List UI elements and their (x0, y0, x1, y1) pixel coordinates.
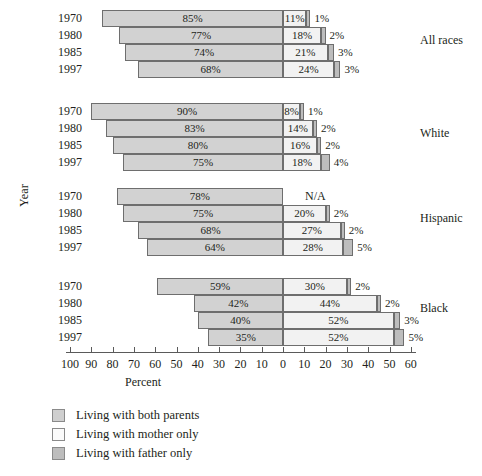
bar-segment-both-parents: 90% (91, 103, 283, 120)
bar-value-father-only: 3% (345, 61, 360, 78)
x-tick-mark (134, 347, 135, 353)
bar-segment-both-parents: 42% (194, 295, 283, 312)
x-tick-mark (347, 347, 348, 353)
bar-segment-father-only (317, 137, 321, 154)
bar-value-father-only: 2% (334, 205, 349, 222)
bar-value-na: N/A (305, 188, 326, 205)
legend-label: Living with mother only (76, 425, 199, 444)
bar-segment-father-only (306, 10, 310, 27)
year-tick-label: 1985 (38, 137, 82, 154)
bar-segment-father-only (341, 222, 345, 239)
bar-segment-father-only (300, 103, 304, 120)
year-tick-label: 1997 (38, 154, 82, 171)
year-tick-label: 1970 (38, 278, 82, 295)
x-axis-title: Percent (0, 375, 482, 390)
bar-segment-father-only (321, 27, 325, 44)
bar-value-father-only: 2% (321, 120, 336, 137)
bar-segment-both-parents: 85% (102, 10, 283, 27)
bar-segment-mother-only: 18% (283, 27, 321, 44)
x-tick-mark (155, 347, 156, 353)
bar-segment-both-parents: 83% (106, 120, 283, 137)
bar-value-father-only: 2% (385, 295, 400, 312)
legend-swatch-both-parents (52, 409, 65, 422)
bar-value-father-only: 3% (404, 312, 419, 329)
group-label: All races (420, 33, 463, 48)
year-tick-label: 1970 (38, 10, 82, 27)
bar-segment-both-parents: 35% (208, 329, 283, 346)
x-tick-mark (70, 347, 71, 353)
bar-segment-father-only (377, 295, 381, 312)
bar-value-father-only: 1% (314, 10, 329, 27)
bar-value-father-only: 2% (349, 222, 364, 239)
x-tick-mark (283, 347, 284, 353)
bar-segment-mother-only: 21% (283, 44, 328, 61)
bar-segment-mother-only: 44% (283, 295, 377, 312)
bar-segment-mother-only: 11% (283, 10, 306, 27)
year-tick-label: 1997 (38, 61, 82, 78)
x-tick-mark (411, 347, 412, 353)
group-label: Black (420, 301, 448, 316)
x-tick-mark (304, 347, 305, 353)
bar-segment-mother-only: 24% (283, 61, 334, 78)
bar-segment-mother-only: 52% (283, 329, 394, 346)
bar-segment-mother-only: 30% (283, 278, 347, 295)
legend-label: Living with both parents (76, 406, 199, 425)
bar-segment-both-parents: 77% (119, 27, 283, 44)
bar-value-father-only: 5% (408, 329, 423, 346)
group-label: Hispanic (420, 211, 463, 226)
x-tick-label: 60 (396, 357, 426, 372)
x-tick-mark (262, 347, 263, 353)
year-tick-label: 1980 (38, 120, 82, 137)
bar-segment-mother-only: 18% (283, 154, 321, 171)
bar-segment-mother-only: 27% (283, 222, 341, 239)
chart-root: Year 197085%11%1%198077%18%2%198574%21%3… (0, 0, 482, 476)
bar-segment-both-parents: 80% (113, 137, 283, 154)
year-tick-label: 1980 (38, 205, 82, 222)
bar-value-father-only: 1% (308, 103, 323, 120)
x-tick-mark (198, 347, 199, 353)
bar-segment-mother-only: 14% (283, 120, 313, 137)
x-tick-mark (368, 347, 369, 353)
bar-segment-both-parents: 40% (198, 312, 283, 329)
bar-segment-both-parents: 59% (157, 278, 283, 295)
bar-segment-both-parents: 64% (147, 239, 283, 256)
bar-segment-father-only (347, 278, 351, 295)
x-tick-mark (91, 347, 92, 353)
bar-value-father-only: 2% (330, 27, 345, 44)
legend-swatch-father-only (52, 447, 65, 460)
year-tick-label: 1970 (38, 188, 82, 205)
bar-segment-mother-only: 16% (283, 137, 317, 154)
x-tick-mark (177, 347, 178, 353)
bar-segment-father-only (326, 205, 330, 222)
bar-segment-both-parents: 74% (125, 44, 283, 61)
bar-segment-father-only (328, 44, 334, 61)
bar-value-father-only: 2% (325, 137, 340, 154)
x-tick-mark (113, 347, 114, 353)
year-tick-label: 1970 (38, 103, 82, 120)
y-axis-title: Year (17, 166, 32, 226)
group-label: White (420, 126, 449, 141)
year-tick-label: 1985 (38, 312, 82, 329)
bar-segment-father-only (321, 154, 330, 171)
bar-segment-both-parents: 68% (138, 222, 283, 239)
x-tick-mark (390, 347, 391, 353)
year-tick-label: 1997 (38, 239, 82, 256)
year-tick-label: 1985 (38, 44, 82, 61)
bar-segment-mother-only: 8% (283, 103, 300, 120)
bar-value-father-only: 3% (338, 44, 353, 61)
bar-value-father-only: 4% (334, 154, 349, 171)
year-tick-label: 1997 (38, 329, 82, 346)
bar-segment-father-only (343, 239, 354, 256)
x-tick-mark (326, 347, 327, 353)
legend-label: Living with father only (76, 444, 192, 463)
bar-value-father-only: 2% (355, 278, 370, 295)
bar-segment-father-only (334, 61, 340, 78)
bar-segment-both-parents: 75% (123, 154, 283, 171)
year-tick-label: 1985 (38, 222, 82, 239)
bar-segment-mother-only: 52% (283, 312, 394, 329)
bar-segment-both-parents: 75% (123, 205, 283, 222)
x-tick-mark (240, 347, 241, 353)
plot-area: Year 197085%11%1%198077%18%2%198574%21%3… (0, 0, 482, 476)
bar-segment-father-only (394, 329, 405, 346)
bar-segment-father-only (394, 312, 400, 329)
